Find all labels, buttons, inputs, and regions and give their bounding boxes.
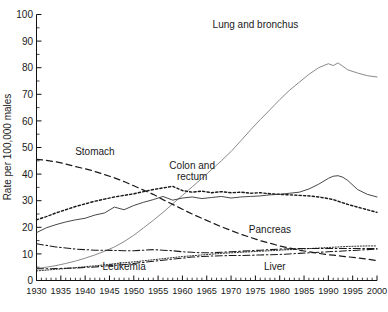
x-axis-tick-label: 1980 — [269, 286, 289, 296]
x-axis-tick-label: 1955 — [148, 286, 168, 296]
y-axis-tick-label: 90 — [22, 36, 34, 47]
x-axis-tick-label: 1970 — [221, 286, 241, 296]
y-axis-tick-label: 40 — [22, 169, 34, 180]
cancer-mortality-chart: Lung and bronchusStomachColon andrectumP… — [0, 0, 388, 312]
y-axis-tick-label: 0 — [27, 275, 33, 286]
y-axis-tick-label: 70 — [22, 89, 34, 100]
series-label-stomach: Stomach — [75, 146, 114, 157]
y-axis-tick-label: 30 — [22, 195, 34, 206]
x-axis-tick-label: 1930 — [26, 286, 46, 296]
x-axis-tick-label: 2000 — [367, 286, 387, 296]
y-axis-tick-label: 20 — [22, 222, 34, 233]
series-line-prostate — [37, 176, 378, 233]
series-label-pancreas: Pancreas — [249, 224, 291, 235]
y-axis-tick-label: 50 — [22, 142, 34, 153]
x-axis-tick-label: 1960 — [172, 286, 192, 296]
series-label-colon-and-rectum: Colon and — [169, 160, 215, 171]
x-axis-tick-label: 1940 — [75, 286, 95, 296]
y-axis-tick-label: 100 — [16, 9, 33, 20]
x-axis-tick-label: 1975 — [245, 286, 265, 296]
x-axis-tick-label: 1935 — [51, 286, 71, 296]
series-line-colon-and-rectum — [37, 186, 378, 220]
x-axis-tick-label: 1995 — [342, 286, 362, 296]
series-label-lung-and-bronchus: Lung and bronchus — [213, 19, 299, 30]
x-axis-tick-label: 1985 — [294, 286, 314, 296]
x-axis-tick-label: 1945 — [99, 286, 119, 296]
chart-plot-area: Lung and bronchusStomachColon andrectumP… — [0, 0, 388, 312]
x-axis-tick-label: 1990 — [318, 286, 338, 296]
series-label-liver: Liver — [264, 261, 286, 272]
x-axis-tick-label: 1950 — [124, 286, 144, 296]
y-axis-tick-label: 60 — [22, 116, 34, 127]
y-axis-title: Rate per 100,000 males — [2, 94, 13, 201]
series-label-leukemia: Leukemia — [102, 261, 146, 272]
x-axis-tick-label: 1965 — [197, 286, 217, 296]
chart-series-labels: Lung and bronchusStomachColon andrectumP… — [75, 19, 298, 272]
series-line-liver — [37, 249, 378, 269]
series-label-colon-and-rectum: rectum — [177, 171, 208, 182]
y-axis-tick-label: 10 — [22, 249, 34, 260]
y-axis-tick-label: 80 — [22, 62, 34, 73]
